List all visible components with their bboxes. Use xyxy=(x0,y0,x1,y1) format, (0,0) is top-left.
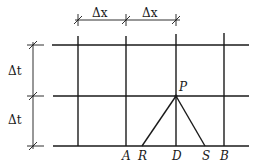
label-S: S xyxy=(202,149,210,163)
label-D: D xyxy=(171,149,182,163)
dt-label-1: Δt xyxy=(8,64,22,78)
label-R: R xyxy=(137,149,147,163)
label-P: P xyxy=(178,80,188,94)
mesh-diagram: Δx Δx Δt Δt P A R D S B xyxy=(0,0,262,167)
label-B: B xyxy=(219,149,229,163)
dx-label-2: Δx xyxy=(142,6,158,20)
characteristic-PR xyxy=(142,96,176,146)
label-A: A xyxy=(121,149,131,163)
point-P-marker xyxy=(174,94,177,97)
dt-label-2: Δt xyxy=(8,113,22,127)
dx-label-1: Δx xyxy=(92,6,108,20)
characteristic-PS xyxy=(176,96,205,146)
